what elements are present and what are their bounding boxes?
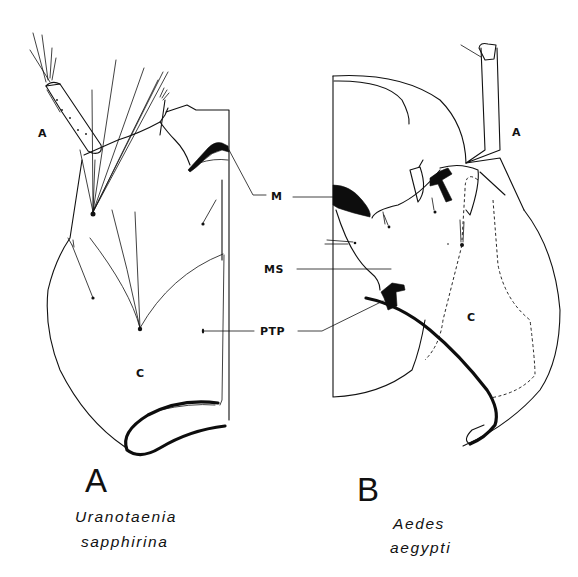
panel-a-antenna-label: A [38,127,47,140]
panel-b-species: aegypti [390,539,451,556]
panel-b-drawing [325,44,560,447]
panel-b-genus: Aedes [392,515,445,532]
shared-leader-lines [203,150,391,331]
label-m: M [271,190,282,203]
mosquito-head-comparison-figure: A C [0,0,578,577]
panel-b-labium [366,298,496,444]
panel-b-antenna [461,44,560,447]
panel-a-clypeus-label: C [136,367,145,380]
panel-b-clypeus-label: C [467,311,476,324]
panel-a-species: sapphirina [81,533,169,550]
label-ptp: PTP [260,325,285,338]
panel-b-letter: B [357,471,379,508]
panel-b-compound-eye [333,76,466,164]
label-ms: MS [264,263,284,276]
panel-a-drawing [30,33,229,455]
panel-b-antenna-label: A [512,126,521,139]
panel-a-labium [126,402,225,455]
panel-a-mandible-mark [188,143,229,172]
panel-a-genus: Uranotaenia [75,508,177,525]
panel-b-midline [333,76,425,397]
panel-b-mandible-mark [333,185,370,217]
panel-a-letter: A [85,462,107,499]
panel-a-head-outline [47,160,125,447]
